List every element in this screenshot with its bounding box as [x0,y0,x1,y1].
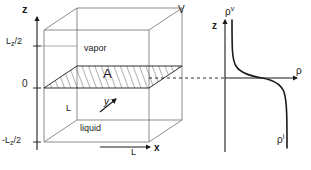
density-plot [225,20,297,152]
vapor-phase-label: vapor [84,44,107,53]
box-edge-top-left [44,8,77,30]
z-tick-label-top: Lz/2 [6,37,22,47]
y-axis-label: y [104,97,109,107]
edge-length-label-x: L [131,148,136,157]
box-edge-bottom-left [44,120,77,142]
edge-length-label-y: L [66,104,71,113]
box-back-face [77,8,182,120]
plot-rho-axis-label: ρ [296,66,302,76]
vapor-density-label: ρv [225,5,234,17]
interface-area-label: A [103,67,112,80]
interface-plane [44,66,182,88]
z-tick-label-zero: 0 [22,79,28,89]
x-axis-label: x [154,143,160,153]
volume-label: V [178,5,185,15]
liquid-phase-label: liquid [80,124,101,133]
density-profile-curve [232,20,287,148]
interface-area-hatched [44,66,182,88]
liquid-density-label: ρl [277,133,284,145]
z-tick-label-bottom: -Lz/2 [2,136,21,146]
box-edge-bottom-right [149,120,182,142]
plot-z-axis-label: z [212,21,217,31]
z-axis-label: z [22,4,28,15]
